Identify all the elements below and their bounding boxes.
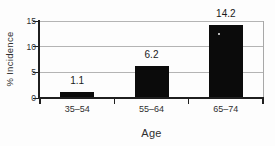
- y-tick-label-0: 0: [16, 93, 36, 103]
- y-axis-line: [38, 20, 40, 99]
- y-tick-label-15: 15: [16, 16, 36, 26]
- x-tick-label: 65–74: [196, 104, 256, 114]
- bar: [209, 25, 243, 98]
- gridline-15: [40, 21, 263, 22]
- scan-artifact-dot: [218, 33, 220, 35]
- x-tick-mark: [262, 99, 264, 104]
- x-tick-mark: [39, 99, 41, 104]
- x-tick-mark: [114, 99, 116, 104]
- plot-right-border: [263, 21, 264, 98]
- y-tick-label-5: 5: [16, 67, 36, 77]
- y-tick-label-10: 10: [16, 42, 36, 52]
- x-tick-label: 55–64: [122, 104, 182, 114]
- bar-value-label: 14.2: [196, 8, 256, 19]
- plot-area: 1.16.214.2: [40, 21, 263, 98]
- x-axis-label: Age: [40, 127, 263, 139]
- y-axis-label: % Incidence: [4, 14, 16, 104]
- x-tick-mark: [188, 99, 190, 104]
- x-tick-label: 35–54: [47, 104, 107, 114]
- bar: [135, 66, 169, 98]
- bar-chart: % Incidence 1.16.214.2 051015 35–5455–64…: [0, 0, 275, 146]
- x-axis-line: [38, 97, 264, 99]
- bar-value-label: 1.1: [47, 75, 107, 86]
- bar-value-label: 6.2: [122, 49, 182, 60]
